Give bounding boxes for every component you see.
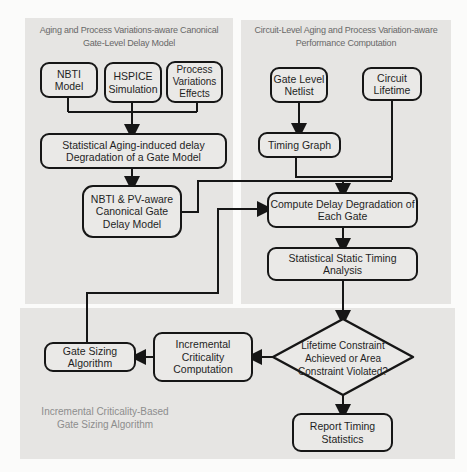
connector-timinggraph-to-compute-feed (296, 158, 391, 177)
node-incremental-criticality-computation: Incremental Criticality Computation (153, 332, 253, 382)
node-process-variations-effects: Process Variations Effects (166, 61, 223, 103)
node-hspice-simulation: HSPICE Simulation (104, 62, 162, 103)
node-lifetime-decision-label: Lifetime Constraint Achieved or Area Con… (276, 337, 410, 379)
node-circuit-lifetime: Circuit Lifetime (362, 67, 422, 101)
node-report-timing-statistics: Report Timing Statistics (292, 413, 393, 452)
node-statistical-static-timing-analysis: Statistical Static Timing Analysis (267, 247, 418, 281)
node-gate-sizing-algorithm: Gate Sizing Algorithm (44, 342, 136, 372)
node-gate-level-netlist: Gate Level Netlist (270, 67, 328, 103)
flowchart-figure: Aging and Process Variations-aware Canon… (0, 0, 467, 472)
node-compute-delay-degradation: Compute Delay Degradation of Each Gate (267, 192, 418, 228)
node-timing-graph: Timing Graph (258, 132, 341, 158)
node-nbti-pv-canonical-delay-model: NBTI & PV-aware Canonical Gate Delay Mod… (82, 185, 182, 238)
node-statistical-aging-degradation: Statistical Aging-induced delay Degradat… (40, 133, 227, 169)
node-nbti-model: NBTI Model (40, 62, 98, 98)
